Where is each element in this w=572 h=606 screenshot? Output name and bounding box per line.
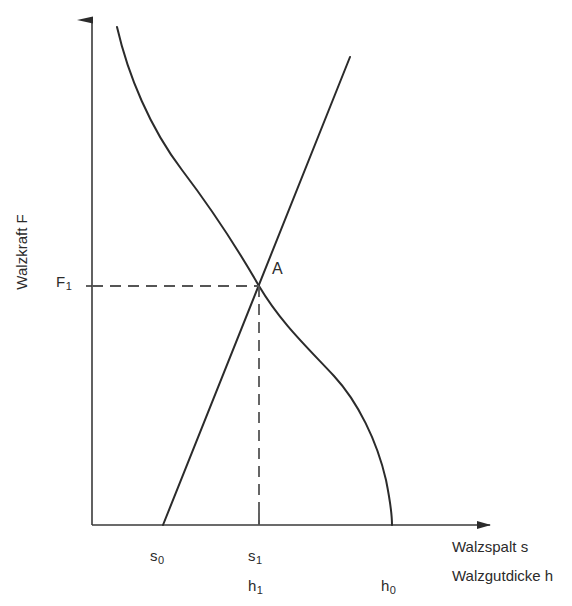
tick-label-h0-sub: 0 bbox=[390, 584, 396, 596]
tick-label-h1-sub: 1 bbox=[257, 584, 263, 596]
intersection-point-label: A bbox=[272, 261, 283, 277]
tick-label-f1-sub: 1 bbox=[66, 280, 72, 292]
tick-label-s0: s0 bbox=[150, 548, 164, 563]
material-characteristic-curve bbox=[117, 27, 392, 525]
tick-label-h0-base: h bbox=[381, 577, 389, 594]
plot-canvas bbox=[0, 0, 572, 606]
x-axis-label-primary: Walzspalt s bbox=[452, 539, 528, 554]
x-axis-label-secondary: Walzgutdicke h bbox=[452, 568, 553, 583]
tick-label-s1-sub: 1 bbox=[256, 554, 262, 566]
y-axis-label: Walzkraft F bbox=[0, 243, 81, 261]
rolling-force-diagram: Walzkraft F F1 A s0 s1 h1 h0 Walzspalt s… bbox=[0, 0, 572, 606]
tick-label-s1-base: s bbox=[248, 547, 256, 564]
mill-spring-line bbox=[163, 57, 350, 525]
tick-label-h1: h1 bbox=[248, 578, 262, 593]
tick-label-f1-base: F bbox=[56, 273, 65, 290]
tick-label-s0-base: s bbox=[150, 547, 158, 564]
tick-label-s0-sub: 0 bbox=[158, 554, 164, 566]
tick-label-f1: F1 bbox=[56, 274, 71, 289]
tick-label-h1-base: h bbox=[248, 577, 256, 594]
tick-label-s1: s1 bbox=[248, 548, 262, 563]
tick-label-h0: h0 bbox=[381, 578, 395, 593]
